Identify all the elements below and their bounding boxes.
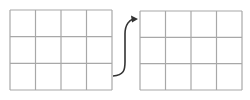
grid-transform-diagram xyxy=(0,0,250,100)
curved-arrow-icon xyxy=(113,16,138,77)
arrow-head xyxy=(131,16,138,23)
left-grid xyxy=(10,10,112,90)
arrow-path xyxy=(113,19,133,76)
right-grid xyxy=(140,11,242,90)
